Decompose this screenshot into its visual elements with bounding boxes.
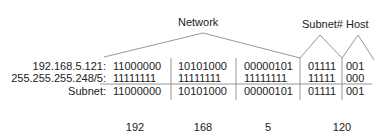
row-label: 192.168.5.121:	[0, 60, 106, 72]
octet-cell: 00000101	[244, 60, 293, 72]
subnet-host-label: Subnet# Host	[302, 18, 369, 30]
subnet-cell: 01111	[308, 85, 336, 97]
octet-cell: 11000000	[113, 60, 161, 72]
octet-cell: 11111111	[244, 72, 287, 84]
decimal-value: 168	[188, 121, 218, 133]
octet-cell: 10101000	[178, 60, 227, 72]
subnet-bracket	[300, 35, 342, 58]
host-cell: 001	[346, 60, 364, 72]
octet-cell: 00000101	[244, 85, 293, 97]
octet-cell: 11000000	[113, 85, 161, 97]
decimal-value: 192	[120, 121, 150, 133]
row-label: Subnet:	[0, 85, 106, 97]
octet-cell: 10101000	[178, 85, 227, 97]
subnet-cell: 01111	[308, 60, 336, 72]
host-bracket	[342, 35, 374, 60]
octet-cell: 11111111	[113, 72, 156, 84]
decimal-value: 120	[327, 121, 357, 133]
subnet-cell: 11111	[308, 72, 335, 84]
host-cell: 000	[346, 72, 364, 84]
row-label: 255.255.255.248/5:	[0, 72, 106, 84]
decimal-value: 5	[253, 121, 283, 133]
network-label: Network	[178, 16, 218, 28]
octet-cell: 11111111	[178, 72, 221, 84]
host-cell: 001	[346, 85, 364, 97]
network-bracket	[104, 33, 300, 58]
